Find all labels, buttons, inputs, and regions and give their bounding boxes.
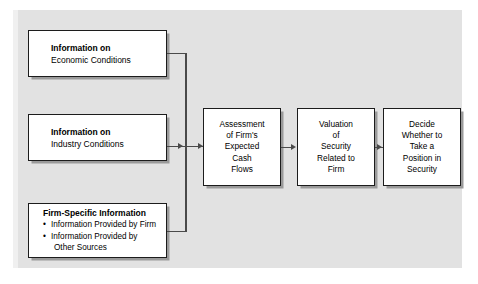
list-item: • Information Provided by Firm xyxy=(43,219,166,231)
node-text-line: Position in xyxy=(388,153,456,164)
list-item: • Information Provided by Other Sources xyxy=(43,231,166,254)
node-subtitle: Industry Conditions xyxy=(51,138,166,150)
bullet-icon: • xyxy=(43,231,46,243)
arrowhead-bus-junction-icon xyxy=(178,143,183,149)
node-text-line: Expected xyxy=(208,141,276,152)
node-title: Firm-Specific Information xyxy=(43,207,166,219)
node-text-line: Decide xyxy=(388,119,456,130)
node-information-industry-conditions: Information on Industry Conditions xyxy=(28,114,167,161)
connector-industry-stub xyxy=(167,146,186,148)
list-item-label-continuation: Other Sources xyxy=(51,242,166,254)
arrowhead-into-decide-icon xyxy=(377,144,382,150)
node-content: Decide Whether to Take a Position in Sec… xyxy=(384,119,460,175)
list-item-label: Information Provided by xyxy=(51,232,137,241)
node-information-economic-conditions: Information on Economic Conditions xyxy=(28,30,167,77)
node-text-line: of xyxy=(302,130,370,141)
node-text-line: Assessment xyxy=(208,119,276,130)
node-text-line: Flows xyxy=(208,164,276,175)
node-assessment-of-firms-expected-cash-flows: Assessment of Firm's Expected Cash Flows xyxy=(203,108,281,186)
node-decide-whether-to-take-a-position-in-security: Decide Whether to Take a Position in Sec… xyxy=(383,108,461,186)
node-text-line: Take a xyxy=(388,141,456,152)
node-text-line: Security xyxy=(302,141,370,152)
firm-information-bullet-list: • Information Provided by Firm • Informa… xyxy=(43,219,166,254)
bullet-icon: • xyxy=(43,219,46,231)
node-subtitle: Economic Conditions xyxy=(51,54,166,66)
node-content: Valuation of Security Related to Firm xyxy=(298,119,374,175)
connector-vertical-bus xyxy=(185,53,187,232)
connector-firm-stub xyxy=(167,231,186,233)
node-text-line: Whether to xyxy=(388,130,456,141)
node-content: Information on Industry Conditions xyxy=(29,126,166,150)
node-title: Information on xyxy=(51,42,166,54)
node-valuation-of-security-related-to-firm: Valuation of Security Related to Firm xyxy=(297,108,375,186)
node-text-line: of Firm's xyxy=(208,130,276,141)
arrowhead-into-valuation-icon xyxy=(291,144,296,150)
node-text-line: Firm xyxy=(302,164,370,175)
node-text-line: Valuation xyxy=(302,119,370,130)
node-title: Information on xyxy=(51,126,166,138)
node-text-line: Security xyxy=(388,164,456,175)
node-content: Firm-Specific Information • Information … xyxy=(29,207,166,254)
node-content: Information on Economic Conditions xyxy=(29,42,166,66)
node-content: Assessment of Firm's Expected Cash Flows xyxy=(204,119,280,175)
node-text-line: Cash xyxy=(208,153,276,164)
node-firm-specific-information: Firm-Specific Information • Information … xyxy=(28,203,167,258)
node-text-line: Related to xyxy=(302,153,370,164)
list-item-label: Information Provided by Firm xyxy=(51,220,156,229)
connector-economic-stub xyxy=(167,53,186,55)
diagram-canvas: Information on Economic Conditions Infor… xyxy=(0,0,478,284)
